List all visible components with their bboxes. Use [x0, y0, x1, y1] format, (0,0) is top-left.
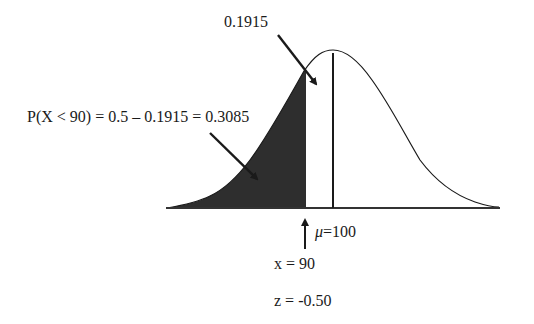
middle-area-label: 0.1915	[224, 14, 268, 30]
middle-area-arrow	[278, 35, 316, 84]
normal-distribution-figure: 0.1915 P(X < 90) = 0.5 – 0.1915 = 0.3085…	[0, 0, 534, 324]
z-value-label: z = -0.50	[274, 293, 331, 309]
left-tail-probability-label: P(X < 90) = 0.5 – 0.1915 = 0.3085	[27, 109, 249, 125]
mu-symbol: μ	[315, 223, 323, 240]
x-value-label: x = 90	[274, 256, 315, 272]
mean-label: μ=100	[315, 224, 356, 240]
shaded-left-tail-area	[167, 71, 306, 208]
left-tail-arrow	[210, 133, 257, 179]
distribution-plot	[0, 0, 534, 324]
mean-value: =100	[323, 223, 356, 240]
